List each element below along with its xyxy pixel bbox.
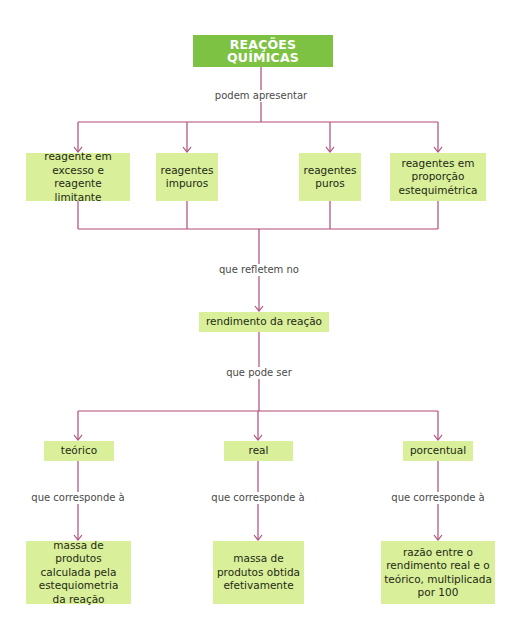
node-porcentual: porcentual <box>403 441 473 461</box>
label-que-corresponde-real: que corresponde à <box>208 492 307 504</box>
label-que-corresponde-porcentual: que corresponde à <box>388 492 487 504</box>
node-reagentes-puros: reagentes puros <box>299 153 361 201</box>
label-que-corresponde-teorico: que corresponde à <box>28 492 127 504</box>
node-reagentes-impuros: reagentes impuros <box>156 153 218 201</box>
node-rendimento-da-reacao: rendimento da reação <box>199 312 329 332</box>
title-node: REAÇÕES QUÍMICAS <box>193 35 333 67</box>
node-massa-obtida: massa de produtos obtida efetivamente <box>213 541 304 604</box>
node-razao-rendimento: razão entre o rendimento real e o teóric… <box>381 541 495 604</box>
label-que-refletem-no: que refletem no <box>216 264 302 276</box>
node-reagente-excesso-limitante: reagente em excesso e reagente limitante <box>26 153 130 201</box>
concept-map: REAÇÕES QUÍMICAS podem apresentar reagen… <box>0 0 518 633</box>
label-podem-apresentar: podem apresentar <box>212 90 310 102</box>
label-que-pode-ser: que pode ser <box>223 367 295 379</box>
node-reagentes-proporcao-estequimetrica: reagentes em proporção estequimétrica <box>390 153 486 201</box>
node-massa-calculada: massa de produtos calculada pela estequi… <box>26 541 131 604</box>
node-real: real <box>224 441 293 461</box>
node-teorico: teórico <box>44 441 114 461</box>
